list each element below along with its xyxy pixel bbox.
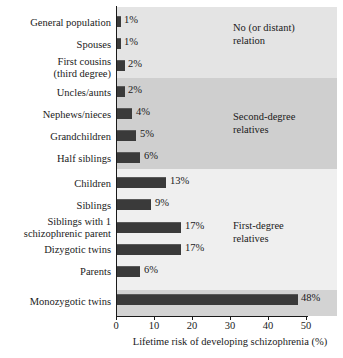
value-label-parents: 6%: [144, 264, 158, 275]
bar-grandchildren: [117, 130, 136, 141]
category-label-siblings: Siblings: [0, 200, 111, 212]
bar-siblings-with-1-schizophrenic-parent: [117, 222, 181, 233]
bar-half-siblings: [117, 152, 140, 163]
bar-siblings: [117, 199, 151, 210]
category-label-monozygotic-twins: Monozygotic twins: [0, 296, 111, 308]
category-label-nephews-nieces: Nephews/nieces: [0, 109, 111, 121]
y-axis-line: [116, 6, 117, 316]
bar-first-cousins: [117, 60, 125, 71]
x-axis-line: [116, 316, 308, 317]
category-label-half-siblings: Half siblings: [0, 153, 111, 165]
x-axis-tick-label-20: 20: [187, 320, 198, 331]
category-label-children: Children: [0, 178, 111, 190]
value-label-siblings: 9%: [155, 197, 169, 208]
bar-uncles-aunts: [117, 86, 125, 97]
value-label-half-siblings: 6%: [144, 150, 158, 161]
x-axis-tick-label-10: 10: [149, 320, 160, 331]
value-label-dizygotic-twins: 17%: [185, 242, 204, 253]
schizophrenia-risk-bar-chart: General population Spouses First cousins…: [0, 0, 343, 358]
group-annotation-first-degree-relatives: First-degree relatives: [233, 220, 284, 245]
category-label-dizygotic-twins: Dizygotic twins: [0, 244, 111, 256]
bar-general-population: [117, 16, 121, 27]
bar-spouses: [117, 38, 121, 49]
category-label-siblings-with-1-schizophrenic-parent: Siblings with 1 schizophrenic parent: [0, 216, 111, 239]
x-axis-tick-label-30: 30: [225, 320, 236, 331]
value-label-uncles-aunts: 2%: [128, 84, 142, 95]
value-label-monozygotic-twins: 48%: [301, 292, 320, 303]
value-label-siblings-with-1-schizophrenic-parent: 17%: [185, 220, 204, 231]
category-label-spouses: Spouses: [0, 39, 111, 51]
band-no-or-distant-relation: [117, 7, 337, 78]
category-label-grandchildren: Grandchildren: [0, 131, 111, 143]
value-label-general-population: 1%: [124, 14, 138, 25]
x-axis-title: Lifetime risk of developing schizophreni…: [117, 336, 343, 347]
category-label-parents: Parents: [0, 266, 111, 278]
value-label-nephews-nieces: 4%: [136, 106, 150, 117]
value-label-children: 13%: [170, 175, 189, 186]
bar-dizygotic-twins: [117, 244, 181, 255]
value-label-spouses: 1%: [124, 36, 138, 47]
x-axis-tick-label-50: 50: [301, 320, 312, 331]
x-axis-tick-label-0: 0: [113, 320, 118, 331]
bar-nephews-nieces: [117, 108, 132, 119]
group-annotation-no-or-distant-relation: No (or distant) relation: [233, 22, 295, 47]
bar-monozygotic-twins: [117, 294, 298, 305]
category-label-general-population: General population: [0, 17, 111, 29]
x-axis-tick-label-40: 40: [263, 320, 274, 331]
bar-parents: [117, 266, 140, 277]
group-annotation-second-degree-relatives: Second-degree relatives: [233, 111, 295, 136]
category-label-first-cousins: First cousins (third degree): [0, 56, 111, 79]
bar-children: [117, 177, 166, 188]
value-label-grandchildren: 5%: [140, 128, 154, 139]
value-label-first-cousins: 2%: [128, 58, 142, 69]
category-label-uncles-aunts: Uncles/aunts: [0, 87, 111, 99]
